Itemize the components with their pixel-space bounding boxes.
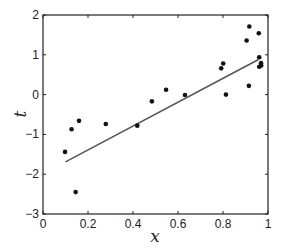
data-point [247, 24, 252, 29]
data-point [257, 55, 262, 60]
x-axis-label: x [150, 226, 160, 246]
data-point [221, 61, 226, 66]
scatter-chart: 00.20.40.60.81210−1−2−3 x t [0, 0, 283, 248]
data-point [135, 123, 140, 128]
data-point [256, 31, 261, 36]
plot-area [63, 24, 264, 194]
data-point [259, 63, 264, 68]
y-tick-label: −1 [25, 127, 39, 141]
x-tick-label: 0.8 [215, 217, 232, 231]
data-point [77, 119, 82, 124]
y-tick-label: −3 [25, 207, 39, 221]
y-axis-label: t [10, 110, 30, 117]
y-tick-label: 2 [32, 8, 39, 22]
x-tick-label: 1 [265, 217, 272, 231]
data-point [73, 190, 78, 195]
data-point [150, 99, 155, 104]
y-tick-label: 1 [32, 48, 39, 62]
data-point [63, 150, 68, 155]
data-point [103, 122, 108, 127]
data-point [244, 38, 249, 43]
data-point [247, 84, 252, 89]
y-tick-label: 0 [32, 88, 39, 102]
data-point [164, 88, 169, 93]
data-point [183, 93, 188, 98]
data-point [224, 92, 229, 97]
x-tick-label: 0 [40, 217, 47, 231]
data-point [219, 66, 224, 71]
fit-line [66, 60, 259, 162]
x-tick-label: 0.6 [170, 217, 187, 231]
data-point [69, 127, 74, 132]
y-tick-label: −2 [25, 167, 39, 181]
axis-ticks: 00.20.40.60.81210−1−2−3 [25, 8, 271, 231]
x-tick-label: 0.2 [80, 217, 97, 231]
x-tick-label: 0.4 [125, 217, 142, 231]
